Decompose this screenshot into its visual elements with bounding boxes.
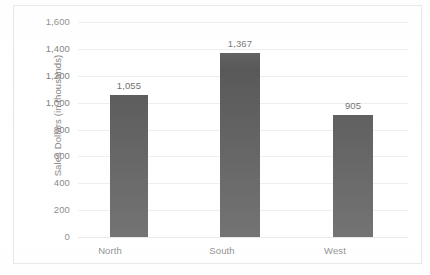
y-tick-label: 600 [8, 151, 70, 161]
plot-area: 1,055 1,367 905 [78, 22, 408, 237]
y-tick-label: 200 [8, 205, 70, 215]
axis-baseline [78, 237, 408, 238]
y-tick-label: 800 [8, 125, 70, 135]
y-tick-label: 1,400 [8, 44, 70, 54]
bar-value-label-north: 1,055 [99, 80, 159, 91]
y-axis-tick-labels: 1,600 1,400 1,200 1,000 800 600 400 200 … [8, 22, 70, 237]
bar-value-label-west: 905 [323, 100, 383, 111]
y-tick-label: 400 [8, 178, 70, 188]
x-tick-label-north: North [80, 245, 140, 256]
gridline [78, 49, 408, 50]
bar-west[interactable] [333, 115, 373, 237]
bar-value-label-south: 1,367 [210, 38, 270, 49]
bar-chart: Sales Dollars (in thousands) 1,600 1,400… [0, 0, 430, 275]
x-tick-label-south: South [192, 245, 252, 256]
y-tick-label: 1,600 [8, 17, 70, 27]
y-tick-label: 1,000 [8, 98, 70, 108]
gridline [78, 22, 408, 23]
y-tick-label: 1,200 [8, 71, 70, 81]
bar-south[interactable] [220, 53, 260, 237]
y-tick-label: 0 [8, 232, 70, 242]
x-tick-label-west: West [305, 245, 365, 256]
bar-north[interactable] [110, 95, 148, 237]
